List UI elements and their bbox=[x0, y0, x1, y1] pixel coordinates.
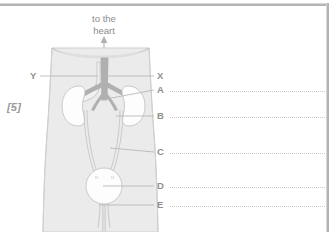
label-D: D bbox=[157, 180, 164, 191]
question-page: [5] to the heart bbox=[0, 0, 333, 232]
answer-line-B[interactable] bbox=[170, 117, 325, 118]
label-X: X bbox=[157, 70, 164, 81]
answer-line-E[interactable] bbox=[170, 206, 325, 207]
label-E: E bbox=[157, 199, 164, 210]
urinary-system-diagram bbox=[0, 0, 333, 232]
label-A: A bbox=[157, 84, 164, 95]
label-C: C bbox=[157, 146, 164, 157]
label-Y: Y bbox=[30, 70, 37, 81]
label-B: B bbox=[157, 110, 164, 121]
answer-line-C[interactable] bbox=[170, 153, 325, 154]
answer-line-A[interactable] bbox=[170, 91, 325, 92]
answer-line-D[interactable] bbox=[170, 187, 325, 188]
